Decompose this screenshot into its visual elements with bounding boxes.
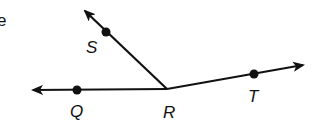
label-q: Q — [70, 102, 83, 121]
angle-diagram: e S Q R T — [0, 0, 323, 129]
cropped-text-fragment: e — [0, 11, 6, 30]
ray-rq-line — [33, 89, 167, 90]
label-r: R — [163, 103, 175, 122]
label-t: T — [248, 87, 260, 106]
point-t-dot — [250, 70, 259, 79]
point-q-dot — [73, 86, 82, 95]
ray-rt-line — [167, 65, 303, 89]
point-s-dot — [102, 28, 111, 37]
label-s: S — [86, 38, 98, 57]
